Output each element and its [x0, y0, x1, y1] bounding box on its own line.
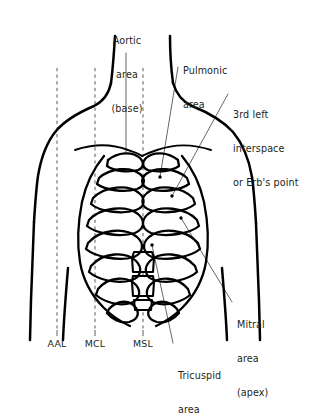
- msl-axis-label: MSL: [125, 339, 161, 349]
- aortic-area-label: Aortic area (base): [98, 12, 156, 137]
- pulmonic-point-marker: [158, 175, 161, 178]
- erb-point-label: 3rd left interspace or Erb's point: [233, 86, 307, 211]
- tricuspid-area-label-line2: area: [178, 404, 242, 415]
- mitral-area-label-line1: Mitral: [237, 319, 303, 330]
- aortic-area-label-line3: (base): [98, 103, 156, 114]
- mitral-area-label-line3: (apex): [237, 387, 303, 398]
- tricuspid-area-label: Tricuspid area: [178, 347, 242, 417]
- mitral-point-marker: [179, 216, 182, 219]
- mitral-area-label-line2: area: [237, 353, 303, 364]
- tricuspid-area-label-line1: Tricuspid: [178, 370, 242, 381]
- sternum-body-segment: [132, 252, 154, 272]
- aortic-area-label-line1: Aortic: [98, 35, 156, 46]
- erb-point-label-line1: 3rd left: [233, 109, 307, 120]
- aortic-area-label-line2: area: [98, 69, 156, 80]
- pulmonic-area-label-line1: Pulmonic: [183, 65, 247, 76]
- mitral-area-label: Mitral area (apex): [237, 296, 303, 417]
- erb-point-label-line2: interspace: [233, 143, 307, 154]
- erb-point-marker: [170, 194, 173, 197]
- erb-point-label-line3: or Erb's point: [233, 177, 307, 188]
- tricuspid-point-marker: [150, 243, 153, 246]
- mcl-axis-label: MCL: [77, 339, 113, 349]
- aal-axis-label: AAL: [39, 339, 75, 349]
